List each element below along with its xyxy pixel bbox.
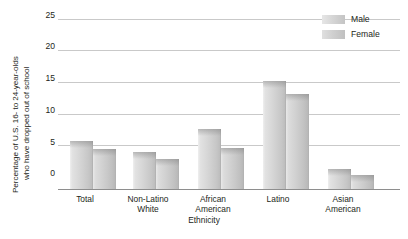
bar-total-male[interactable]	[70, 141, 93, 189]
legend-label-female: Female	[351, 28, 380, 41]
y-tick-label-5: 5	[33, 138, 55, 147]
y-tick-label-10: 10	[33, 106, 55, 115]
x-axis-title: Ethnicity	[0, 215, 408, 225]
bar-total-female[interactable]	[93, 149, 116, 189]
bar-african-american-male[interactable]	[198, 129, 221, 189]
y-tick-label-20: 20	[33, 42, 55, 51]
x-tick-label-asian-american-line-1: Asian	[305, 194, 381, 204]
legend-swatch-female	[322, 30, 345, 39]
x-tick-label-african-american-line-2: American	[175, 204, 251, 214]
bar-african-american-female[interactable]	[221, 148, 244, 189]
bar-group-latino	[263, 19, 309, 189]
bar-asian-american-female[interactable]	[351, 175, 374, 189]
plot-area	[58, 19, 400, 190]
y-tick-label-25: 25	[33, 11, 55, 20]
bar-latino-female[interactable]	[286, 94, 309, 189]
bar-group-asian-american	[328, 19, 374, 189]
bar-group-non-latino-white	[133, 19, 179, 189]
bar-non-latino-white-female[interactable]	[156, 159, 179, 189]
x-tick-label-asian-american: Asian American	[305, 194, 381, 215]
x-axis-line	[58, 189, 400, 190]
bar-asian-american-male[interactable]	[328, 169, 351, 189]
legend-swatch-male	[322, 15, 345, 24]
bar-latino-male[interactable]	[263, 81, 286, 189]
y-tick-label-15: 15	[33, 74, 55, 83]
x-tick-label-asian-american-line-2: American	[305, 204, 381, 214]
bar-non-latino-white-male[interactable]	[133, 152, 156, 189]
y-tick-label-0: 0	[33, 169, 55, 178]
bar-group-total	[70, 19, 116, 189]
bar-chart: Percentage of U.S. 16- to 24-year-olds w…	[0, 0, 408, 239]
y-axis-title-line-1: Percentage of U.S. 16- to 24-year-olds	[11, 56, 20, 193]
legend-label-male: Male	[351, 13, 370, 26]
y-axis-title-line-2: who have dropped out of school	[22, 67, 31, 180]
bar-group-african-american	[198, 19, 244, 189]
y-axis-title: Percentage of U.S. 16- to 24-year-olds w…	[0, 0, 34, 200]
